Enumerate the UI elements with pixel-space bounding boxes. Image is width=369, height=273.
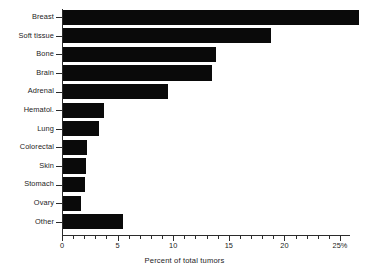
- category-label: Brain: [0, 64, 54, 83]
- x-axis-minor-tick: [140, 236, 141, 239]
- category-label: Other: [0, 213, 54, 232]
- y-axis-tick: [56, 73, 62, 74]
- bar: [63, 158, 86, 173]
- x-axis-minor-tick: [84, 236, 85, 239]
- category-label: Ovary: [0, 194, 54, 213]
- bar: [63, 65, 212, 80]
- x-axis-minor-tick: [106, 236, 107, 239]
- y-axis-tick: [56, 36, 62, 37]
- bar: [63, 121, 99, 136]
- x-axis-title: Percent of total tumors: [0, 256, 369, 265]
- x-axis-minor-tick: [273, 236, 274, 239]
- y-axis-tick: [56, 17, 62, 18]
- x-axis-minor-tick: [296, 236, 297, 239]
- x-axis-minor-tick: [162, 236, 163, 239]
- x-axis-tick-label: 15: [225, 241, 233, 251]
- y-axis-tick: [56, 54, 62, 55]
- y-axis-tick: [56, 203, 62, 204]
- category-label: Soft tissue: [0, 27, 54, 46]
- category-label: Stomach: [0, 175, 54, 194]
- bar-row: Colorectal: [0, 138, 369, 157]
- x-axis-minor-tick: [240, 236, 241, 239]
- category-label: Colorectal: [0, 138, 54, 157]
- bar: [63, 84, 168, 99]
- bar-row: Skin: [0, 157, 369, 176]
- x-axis-tick-label: 10: [169, 241, 177, 251]
- y-axis-tick: [56, 92, 62, 93]
- x-axis-tick-labels: 0510152025%: [0, 241, 369, 253]
- bar: [63, 103, 104, 118]
- bar: [63, 140, 87, 155]
- x-axis-minor-tick: [151, 236, 152, 239]
- category-label: Lung: [0, 120, 54, 139]
- bar-rows-container: BreastSoft tissueBoneBrainAdrenalHematol…: [0, 8, 369, 235]
- x-axis-minor-tick: [129, 236, 130, 239]
- x-axis-minor-tick: [262, 236, 263, 239]
- x-axis-minor-tick: [207, 236, 208, 239]
- bar-row: Brain: [0, 64, 369, 83]
- bar: [63, 10, 359, 25]
- y-axis-tick: [56, 110, 62, 111]
- category-label: Hematol.: [0, 101, 54, 120]
- bar-row: Hematol.: [0, 101, 369, 120]
- bar-row: Breast: [0, 8, 369, 27]
- bar-row: Stomach: [0, 175, 369, 194]
- x-axis-minor-tick: [251, 236, 252, 239]
- bar-row: Ovary: [0, 194, 369, 213]
- category-label: Skin: [0, 157, 54, 176]
- bar-row: Lung: [0, 120, 369, 139]
- x-axis-minor-tick: [73, 236, 74, 239]
- bar-row: Adrenal: [0, 82, 369, 101]
- x-axis-tick-label: 20: [280, 241, 288, 251]
- bar-chart: BreastSoft tissueBoneBrainAdrenalHematol…: [0, 0, 369, 273]
- bar: [63, 177, 85, 192]
- y-axis-tick: [56, 222, 62, 223]
- y-axis-tick: [56, 147, 62, 148]
- bar: [63, 47, 216, 62]
- x-axis-minor-tick: [195, 236, 196, 239]
- x-axis-tick-label: 0: [60, 241, 64, 251]
- x-axis-minor-tick: [218, 236, 219, 239]
- y-axis-tick: [56, 185, 62, 186]
- bar-row: Bone: [0, 45, 369, 64]
- x-axis-minor-tick: [184, 236, 185, 239]
- x-axis-minor-tick: [307, 236, 308, 239]
- category-label: Adrenal: [0, 82, 54, 101]
- y-axis-tick: [56, 166, 62, 167]
- x-axis-minor-tick: [329, 236, 330, 239]
- bar: [63, 28, 271, 43]
- x-axis-tick-label: 25%: [333, 241, 348, 251]
- x-axis-tick-label: 5: [116, 241, 120, 251]
- x-axis-minor-tick: [318, 236, 319, 239]
- x-axis-minor-tick: [95, 236, 96, 239]
- bar-row: Other: [0, 213, 369, 232]
- bar: [63, 196, 81, 211]
- bar: [63, 214, 123, 229]
- category-label: Breast: [0, 8, 54, 27]
- y-axis-tick: [56, 129, 62, 130]
- bar-row: Soft tissue: [0, 27, 369, 46]
- category-label: Bone: [0, 45, 54, 64]
